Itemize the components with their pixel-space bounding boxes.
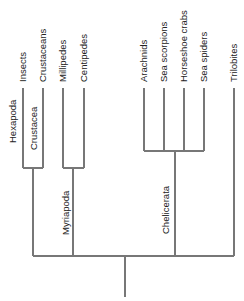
- phylogenetic-tree: Insects Crustaceans Millipedes Centipede…: [0, 0, 244, 301]
- label-sea-spiders: Sea spiders: [198, 32, 209, 82]
- label-hexapoda: Hexapoda: [7, 99, 18, 143]
- label-arachnids: Arachnids: [138, 40, 149, 82]
- label-myriapoda: Myriapoda: [60, 190, 71, 235]
- label-sea-scorpions: Sea scorpions: [158, 22, 169, 82]
- label-chelicerata: Chelicerata: [160, 185, 171, 234]
- label-horseshoe-crabs: Horseshoe crabs: [178, 10, 189, 82]
- label-trilobites: Trilobites: [228, 44, 239, 82]
- label-crustaceans: Crustaceans: [37, 28, 48, 82]
- label-insects: Insects: [17, 52, 28, 82]
- label-millipedes: Millipedes: [57, 40, 68, 82]
- label-crustacea: Crustacea: [28, 106, 39, 150]
- label-centipedes: Centipedes: [78, 34, 89, 82]
